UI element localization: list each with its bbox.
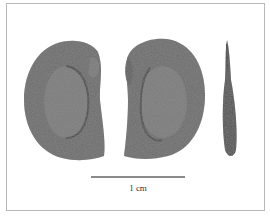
scale-bar bbox=[91, 176, 185, 178]
scale-label-wrap: 1 cm bbox=[0, 183, 270, 193]
scale-label: 1 cm bbox=[129, 183, 147, 193]
